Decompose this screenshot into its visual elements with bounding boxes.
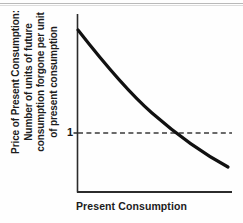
curve-price-of-present-consumption bbox=[78, 30, 228, 167]
x-axis-label: Present Consumption bbox=[0, 200, 243, 212]
plot-area bbox=[0, 0, 243, 223]
chart-figure: Price of Present Consumption: Number of … bbox=[0, 0, 243, 223]
